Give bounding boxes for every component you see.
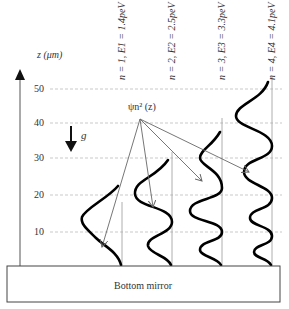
tick-10: 10 — [34, 226, 44, 237]
tick-20: 20 — [34, 189, 44, 200]
tick-50: 50 — [34, 83, 44, 94]
state-labels: n = 1, E1 = 1.4peV n = 2, E2 = 2.5peV n … — [116, 0, 277, 80]
gravity-arrowhead-icon — [65, 141, 77, 152]
wavefunction-label: ψn² (z) — [128, 101, 156, 113]
pointer-arrows — [102, 119, 249, 247]
neutron-gravitational-states-diagram: 50 40 30 20 10 z (μm) g n = 1, E1 = 1.4p… — [0, 0, 289, 309]
state-label-n3: n = 3, E3 = 3.3peV — [216, 0, 227, 80]
state-label-n4: n = 4, E4 = 4.1peV — [266, 0, 277, 80]
wavefunction-curves — [82, 82, 272, 265]
wavefunction-n3 — [190, 132, 222, 265]
state-label-n1: n = 1, E1 = 1.4peV — [116, 0, 127, 80]
tick-30: 30 — [34, 152, 44, 163]
state-label-n2: n = 2, E2 = 2.5peV — [166, 0, 177, 80]
axis-tick-labels: 50 40 30 20 10 — [34, 83, 44, 237]
z-axis-arrowhead-icon — [15, 69, 25, 80]
wavefunction-n2 — [135, 160, 172, 265]
gridlines — [50, 89, 282, 232]
wavefunction-n4 — [236, 82, 272, 265]
bottom-mirror-label: Bottom mirror — [114, 280, 173, 291]
tick-40: 40 — [34, 117, 44, 128]
wavefunction-n1 — [82, 186, 121, 265]
gravity-label: g — [81, 129, 87, 141]
z-axis-label: z (μm) — [36, 49, 63, 61]
